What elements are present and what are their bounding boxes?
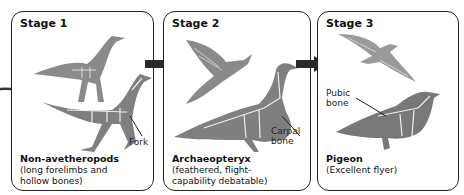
stage-2-name: Archaeopteryx — [172, 153, 251, 164]
stage-3-description: (Excellent flyer) — [326, 165, 397, 176]
stage-2-panel: Stage 2 Carpal bone Archaeopteryx (feath… — [163, 11, 311, 191]
stage-3-name: Pigeon — [326, 153, 363, 164]
pubic-bone-label: Pubic bone — [326, 88, 350, 108]
carpal-bone-label: Carpal bone — [271, 126, 300, 146]
fork-label: Fork — [129, 137, 148, 147]
stage-3-panel: Stage 3 Pubic bone Pigeon (Excellent fly… — [317, 11, 459, 191]
stage-1-description: (long forelimbs and hollow bones) — [20, 165, 107, 187]
stage-1-panel: Stage 1 Fork Non-avetheropods (long fore… — [11, 11, 154, 191]
stage-1-name: Non-avetheropods — [20, 153, 119, 164]
stage-2-description: (feathered, flight- capability debatable… — [172, 165, 267, 187]
